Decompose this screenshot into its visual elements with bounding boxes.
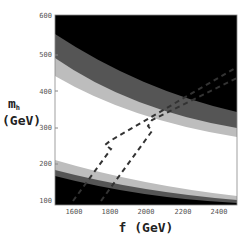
- plot-area: [55, 15, 237, 205]
- svg-text:600: 600: [39, 12, 52, 20]
- svg-text:100: 100: [39, 197, 52, 205]
- svg-text:2000: 2000: [138, 208, 155, 216]
- y-axis-label-units: (GeV): [2, 113, 41, 128]
- svg-text:2200: 2200: [175, 208, 192, 216]
- x-axis-label: f (GeV): [119, 220, 174, 235]
- svg-text:300: 300: [39, 124, 52, 132]
- svg-text:1800: 1800: [102, 208, 119, 216]
- svg-text:1600: 1600: [66, 208, 83, 216]
- y-axis-label: mh: [8, 96, 20, 112]
- x-axis: 1600 1800 2000 2200 2400: [66, 208, 228, 216]
- svg-text:500: 500: [39, 51, 52, 59]
- svg-text:200: 200: [39, 160, 52, 168]
- svg-text:400: 400: [39, 88, 52, 96]
- chart: 600 500 400 300 200 100 1600 1800 2000 2…: [0, 0, 252, 242]
- svg-text:2400: 2400: [211, 208, 228, 216]
